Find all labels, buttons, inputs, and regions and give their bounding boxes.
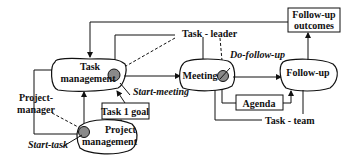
label-project-management-2: management: [82, 136, 138, 147]
dashed-task-leader-to-task: [126, 38, 175, 66]
label-follow-up: Follow-up: [286, 67, 330, 78]
connector-task-leader: [115, 35, 203, 64]
diagram-canvas: Task management Meeting Follow-up Projec…: [0, 0, 357, 160]
connector-meeting-to-agenda: [222, 90, 236, 103]
label-meeting: Meeting: [183, 70, 218, 81]
label-follow-up-outcomes-1: Follow-up: [292, 9, 336, 20]
label-project-manager-2: manager: [17, 104, 55, 115]
label-agenda: Agenda: [243, 98, 276, 109]
connector-agenda-to-followup: [283, 91, 291, 103]
label-task-management-1: Task: [80, 61, 101, 72]
label-task-leader: Task - leader: [182, 28, 238, 39]
start-meeting-pointer: [120, 83, 130, 95]
label-task-management-2: management: [61, 73, 117, 84]
connector-goal-to-task: [117, 91, 125, 103]
label-project-management-1: Project: [105, 124, 137, 135]
label-task-team: Task - team: [265, 115, 315, 126]
dashed-project-manager: [52, 113, 80, 128]
label-start-meeting: Start-meeting: [133, 86, 189, 97]
label-do-follow-up: Do-follow-up: [229, 49, 285, 60]
label-follow-up-outcomes-2: outcomes: [294, 20, 334, 31]
label-project-manager-1: Project-: [19, 92, 53, 103]
label-task1-goal: Task 1 goal: [101, 106, 149, 117]
label-start-task: Start-task: [28, 139, 68, 150]
